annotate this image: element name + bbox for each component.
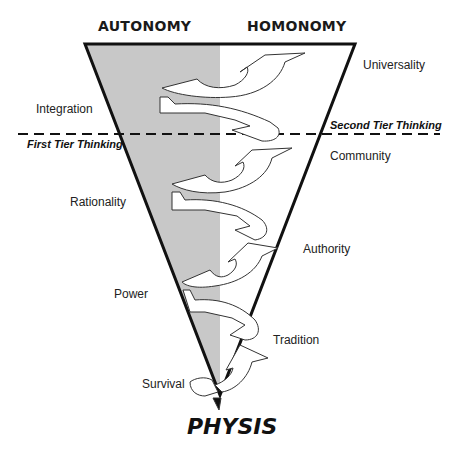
- stage-label-tradition: Tradition: [273, 333, 319, 347]
- stage-label-integration: Integration: [36, 102, 93, 116]
- physis-base-label: PHYSIS: [187, 414, 277, 439]
- stage-label-power: Power: [114, 287, 148, 301]
- stage-label-authority: Authority: [303, 242, 350, 256]
- stage-label-community: Community: [330, 149, 391, 163]
- second-tier-label: Second Tier Thinking: [330, 119, 442, 131]
- homonomy-header: HOMONOMY: [247, 18, 347, 34]
- stage-label-universality: Universality: [363, 58, 425, 72]
- first-tier-label: First Tier Thinking: [27, 138, 123, 150]
- stage-label-survival: Survival: [142, 377, 185, 391]
- stage-label-rationality: Rationality: [70, 195, 126, 209]
- autonomy-header: AUTONOMY: [98, 18, 191, 34]
